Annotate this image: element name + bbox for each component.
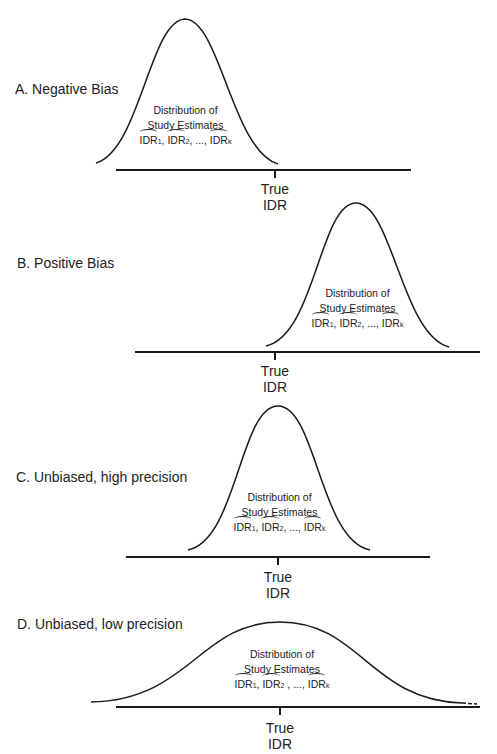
estimate-2: IDR (167, 133, 185, 148)
true-text: True (258, 569, 298, 585)
estimate-1: IDR (235, 677, 253, 692)
estimate-k: IDR (210, 133, 228, 148)
subscript-k: k (228, 138, 232, 145)
separator: , ..., (361, 317, 379, 329)
subscript-1: 1 (330, 321, 334, 328)
panel-d-title: D. Unbiased, low precision (17, 616, 183, 632)
dist-line-1: Distribution of (310, 286, 405, 301)
panel-b-true-idr-label: True IDR (255, 363, 295, 395)
estimates-list: IDR1, IDR2, ..., IDRk (310, 316, 405, 332)
panel-d-distribution-annotation: Distribution of Study Estimates IDR1, ID… (232, 647, 332, 693)
subscript-1: 1 (158, 138, 162, 145)
idr-text: IDR (260, 736, 300, 752)
estimates-list: IDR1, IDR2, ..., IDRk (232, 520, 327, 536)
panel-b-distribution-annotation: Distribution of Study Estimates IDR1, ID… (310, 286, 405, 332)
panel-a-title: A. Negative Bias (15, 81, 119, 97)
separator: , ..., (283, 521, 301, 533)
panel-b-title: B. Positive Bias (17, 255, 114, 271)
subscript-k: k (400, 321, 404, 328)
true-text: True (260, 720, 300, 736)
idr-text: IDR (255, 379, 295, 395)
estimate-k: IDR (308, 677, 326, 692)
subscript-k: k (326, 682, 330, 689)
estimates-list: IDR1, IDR2 , ..., IDRk (232, 677, 332, 693)
diagram-canvas (0, 0, 497, 754)
estimate-1: IDR (140, 133, 158, 148)
subscript-k: k (322, 525, 326, 532)
estimate-1: IDR (312, 316, 330, 331)
estimate-2: IDR (339, 316, 357, 331)
panel-a-true-idr-label: True IDR (255, 181, 295, 213)
estimate-2: IDR (261, 520, 279, 535)
panel-c-title: C. Unbiased, high precision (16, 469, 187, 485)
true-text: True (255, 363, 295, 379)
separator: , ..., (284, 678, 304, 690)
separator: , ..., (189, 134, 207, 146)
subscript-1: 1 (252, 525, 256, 532)
estimate-k: IDR (304, 520, 322, 535)
estimate-1: IDR (234, 520, 252, 535)
panel-c-true-idr-label: True IDR (258, 569, 298, 601)
subscript-1: 1 (253, 682, 257, 689)
panel-c-distribution-annotation: Distribution of Study Estimates IDR1, ID… (232, 490, 327, 536)
panel-d-curve-dashed-tail (462, 703, 477, 704)
panel-a-distribution-annotation: Distribution of Study Estimates IDR1, ID… (138, 103, 233, 149)
dist-line-1: Distribution of (138, 103, 233, 118)
dist-line-1: Distribution of (232, 490, 327, 505)
dist-line-1: Distribution of (232, 647, 332, 662)
true-text: True (255, 181, 295, 197)
estimates-list: IDR1, IDR2, ..., IDRk (138, 133, 233, 149)
estimate-k: IDR (382, 316, 400, 331)
panel-d-true-idr-label: True IDR (260, 720, 300, 752)
idr-text: IDR (258, 585, 298, 601)
estimate-2: IDR (262, 677, 280, 692)
idr-text: IDR (255, 197, 295, 213)
